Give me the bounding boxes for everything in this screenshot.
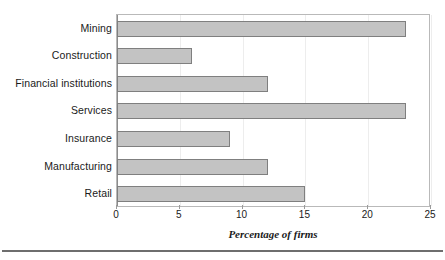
bar-row xyxy=(117,153,429,181)
bar-row xyxy=(117,180,429,208)
bar-construction xyxy=(117,48,192,64)
bar-row xyxy=(117,98,429,126)
category-label-retail: Retail xyxy=(85,179,112,207)
x-axis-tick-labels: 0510152025 xyxy=(116,209,430,225)
plot-area xyxy=(116,14,430,207)
category-label-insurance: Insurance xyxy=(65,124,112,152)
x-axis-title: Percentage of firms xyxy=(116,228,430,240)
category-label-financial-institutions: Financial institutions xyxy=(15,69,112,97)
x-tick-label-5: 5 xyxy=(176,209,182,220)
gridline-25 xyxy=(431,15,432,206)
bar-financial-institutions xyxy=(117,76,268,92)
x-tick-label-25: 25 xyxy=(424,209,435,220)
x-tick-label-10: 10 xyxy=(236,209,247,220)
category-label-services: Services xyxy=(71,97,112,125)
x-tick-label-0: 0 xyxy=(113,209,119,220)
category-axis-labels: MiningConstructionFinancial institutions… xyxy=(0,14,112,207)
bar-mining xyxy=(117,21,406,37)
x-tick-label-20: 20 xyxy=(362,209,373,220)
bar-services xyxy=(117,103,406,119)
category-label-manufacturing: Manufacturing xyxy=(44,152,112,180)
bar-row xyxy=(117,43,429,71)
x-tick-label-15: 15 xyxy=(299,209,310,220)
bar-row xyxy=(117,15,429,43)
bar-row xyxy=(117,70,429,98)
bar-manufacturing xyxy=(117,159,268,175)
bar-insurance xyxy=(117,131,230,147)
bar-row xyxy=(117,125,429,153)
category-label-mining: Mining xyxy=(80,14,112,42)
bottom-divider-rule xyxy=(2,250,443,252)
bar-retail xyxy=(117,186,305,202)
category-label-construction: Construction xyxy=(52,42,112,70)
bar-chart-figure: MiningConstructionFinancial institutions… xyxy=(0,0,445,260)
bars-layer xyxy=(117,15,429,206)
